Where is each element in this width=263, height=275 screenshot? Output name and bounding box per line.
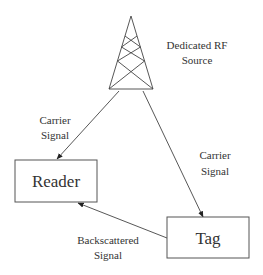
tower-right-leg [131,16,153,89]
antenna-tower-icon [109,16,153,89]
tower-brace [109,61,145,89]
tower-brace [118,61,154,89]
tower-brace [122,36,138,47]
carrier-label-right-line2: Signal [201,165,229,177]
backscatter-label-line1: Backscattered [77,234,139,246]
tower-brace [125,36,141,47]
reader-label: Reader [32,172,80,191]
carrier-arrow-to-tag [143,91,203,217]
tag-node: Tag [167,217,249,258]
reader-node: Reader [15,160,97,202]
tag-label: Tag [195,229,221,248]
backscatter-label-line2: Signal [94,249,122,261]
tower-left-leg [109,16,131,89]
source-label-line2: Source [182,54,213,66]
source-label-line1: Dedicated RF [167,39,228,51]
carrier-label-left-line1: Carrier [39,114,70,126]
backscatter-arrow-to-reader [78,203,167,238]
diagram-canvas: Dedicated RF Source Carrier Signal Carri… [0,0,263,275]
carrier-label-right-line1: Carrier [199,149,230,161]
carrier-label-left-line2: Signal [41,129,69,141]
